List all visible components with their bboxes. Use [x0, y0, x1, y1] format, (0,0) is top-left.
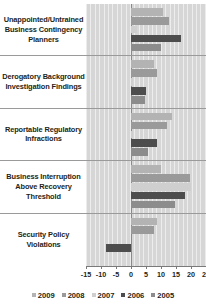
axis-tick: [131, 266, 132, 269]
axis-tick: [146, 266, 147, 269]
axis-tick: [176, 266, 177, 269]
bar-2008: [131, 69, 157, 77]
axis-tick-label: 15: [172, 270, 180, 279]
legend-item-2007[interactable]: 2007: [92, 291, 115, 300]
category-label: Business Interruption Above Recovery Thr…: [0, 161, 86, 212]
bar-2009: [131, 165, 161, 173]
axis-tick-label: -5: [113, 270, 119, 279]
bar-2005: [131, 148, 148, 156]
axis-tick-label: 25: [202, 270, 206, 279]
axis-tick: [161, 266, 162, 269]
axis-tick-label: 20: [187, 270, 195, 279]
legend-item-2008[interactable]: 2008: [62, 291, 85, 300]
bar-group: [86, 109, 206, 160]
legend-label: 2008: [68, 291, 85, 300]
category-label: Security Policy Violations: [0, 214, 86, 266]
legend-swatch-icon: [92, 293, 96, 297]
legend-swatch-icon: [151, 293, 155, 297]
bar-2008: [131, 17, 169, 25]
category-row: Business Interruption Above Recovery Thr…: [0, 161, 206, 213]
category-row: Reportable Regulatory Infractions: [0, 109, 206, 161]
category-row: Unappointed/Untrained Business Contingen…: [0, 4, 206, 56]
plot-band: [86, 214, 206, 266]
bar-2009: [131, 60, 154, 68]
plot-band: [86, 4, 206, 55]
plot-band: [86, 161, 206, 212]
bar-2008: [131, 226, 154, 234]
bar-2007: [131, 78, 133, 86]
bar-2006: [106, 244, 132, 252]
bar-chart: Unappointed/Untrained Business Contingen…: [0, 0, 206, 306]
axis-tick: [191, 266, 192, 269]
bar-2009: [131, 218, 157, 226]
bar-2005: [131, 201, 175, 209]
axis-tick-label: -15: [81, 270, 91, 279]
bar-2006: [131, 139, 157, 147]
plot-band: [86, 56, 206, 107]
bar-group: [86, 214, 206, 266]
category-row: Security Policy Violations: [0, 214, 206, 266]
bar-2009: [131, 113, 172, 121]
bar-2006: [131, 35, 181, 43]
category-rows: Unappointed/Untrained Business Contingen…: [0, 4, 206, 266]
chart-legend: 20092008200720062005: [0, 288, 206, 302]
bar-2007: [131, 131, 133, 139]
legend-label: 2009: [38, 291, 55, 300]
bar-2007: [131, 183, 191, 191]
legend-label: 2007: [98, 291, 115, 300]
bar-2008: [131, 122, 167, 130]
legend-item-2006[interactable]: 2006: [121, 291, 144, 300]
bar-2008: [131, 174, 190, 182]
axis-tick: [116, 266, 117, 269]
axis-tick: [86, 266, 87, 269]
axis-tick-label: 5: [144, 270, 148, 279]
legend-item-2009[interactable]: 2009: [32, 291, 55, 300]
legend-swatch-icon: [62, 293, 66, 297]
x-axis: -15-10-50510152025: [0, 266, 206, 286]
bar-group: [86, 161, 206, 212]
category-row: Derogatory Background Investigation Find…: [0, 56, 206, 108]
bar-2006: [131, 87, 146, 95]
legend-label: 2005: [157, 291, 174, 300]
axis-tick: [101, 266, 102, 269]
bar-group: [86, 56, 206, 107]
legend-label: 2006: [127, 291, 144, 300]
axis-tick-label: -10: [96, 270, 106, 279]
legend-swatch-icon: [121, 293, 125, 297]
bar-2005: [131, 44, 161, 52]
plot-area: Unappointed/Untrained Business Contingen…: [0, 0, 206, 268]
bar-group: [86, 4, 206, 55]
bar-2009: [131, 8, 163, 16]
category-label: Unappointed/Untrained Business Contingen…: [0, 4, 86, 55]
axis-tick-label: 0: [129, 270, 133, 279]
legend-swatch-icon: [32, 293, 36, 297]
bar-2005: [131, 96, 145, 104]
bar-2007: [131, 26, 137, 34]
axis-tick-label: 10: [157, 270, 165, 279]
category-label: Derogatory Background Investigation Find…: [0, 56, 86, 107]
plot-band: [86, 109, 206, 160]
bar-2006: [131, 192, 185, 200]
legend-item-2005[interactable]: 2005: [151, 291, 174, 300]
category-label: Reportable Regulatory Infractions: [0, 109, 86, 160]
